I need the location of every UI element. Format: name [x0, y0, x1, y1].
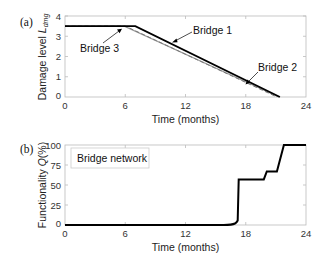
panel-a-ytick-0: 0 [56, 90, 61, 101]
annotation-bridge-2-text: Bridge 2 [258, 61, 297, 73]
panel-b-ylabel-unit: (%) [36, 142, 48, 158]
annotation-bridge-1: Bridge 1 [172, 24, 232, 43]
panel-a-ylabel-main: Damage level [36, 33, 48, 100]
panel-a-ylabel-sub: dmg [42, 14, 50, 28]
panel-b-xtick-12: 12 [180, 228, 191, 239]
panel-a-xtick-18: 18 [240, 100, 251, 111]
panel-a-xtick-12: 12 [180, 100, 191, 111]
panel-a-xlabel: Time (months) [152, 113, 219, 125]
panel-a-label: (a) [20, 16, 33, 29]
series-bridge-2-line [65, 26, 277, 97]
series-bridge-1-line [65, 26, 280, 97]
panel-a-ylabel: Damage level Ldmg [36, 14, 50, 101]
annotation-bridge-3-text: Bridge 3 [80, 42, 119, 54]
panel-b-xlabel: Time (months) [152, 241, 219, 253]
panel-b-ytick-0: 0 [56, 218, 61, 229]
panel-b-ytick-50: 50 [50, 180, 61, 191]
panel-b-ylabel: Functionality Q(%) [36, 142, 48, 228]
panel-a-xtick-0: 0 [62, 100, 67, 111]
panel-a-ytick-3: 3 [56, 31, 61, 42]
panel-a-ytick-1: 1 [56, 71, 61, 82]
annotation-bridge-1-text: Bridge 1 [193, 24, 232, 36]
panel-b-xtick-0: 0 [62, 228, 67, 239]
panel-a-xtick-24: 24 [301, 100, 312, 111]
legend-bridge-network: Bridge network [77, 152, 148, 164]
panel-b: (b) 100 75 50 25 0 0 6 12 18 24 Time (mo… [20, 140, 311, 254]
series-bridge-3-line [65, 26, 279, 97]
panel-b-label: (b) [20, 143, 34, 156]
annotation-bridge-2: Bridge 2 [246, 61, 298, 85]
panel-a-ytick-4: 4 [56, 11, 61, 22]
panel-b-legend: Bridge network [71, 148, 149, 168]
panel-b-xtick-24: 24 [301, 228, 312, 239]
panel-b-ylabel-main: Functionality [36, 166, 48, 228]
panel-a-xtick-6: 6 [123, 100, 128, 111]
panel-b-xtick-6: 6 [123, 228, 128, 239]
panel-a: (a) 4 3 2 1 0 0 6 12 18 24 Time (months) [20, 11, 311, 126]
panel-b-ylabel-var: Q [36, 158, 48, 166]
panel-b-ytick-25: 25 [50, 200, 61, 211]
figure: (a) 4 3 2 1 0 0 6 12 18 24 Time (months) [0, 0, 324, 260]
panel-a-ytick-2: 2 [56, 51, 61, 62]
panel-a-axes-box [65, 16, 306, 97]
panel-b-xtick-18: 18 [240, 228, 251, 239]
annotation-bridge-3: Bridge 3 [80, 29, 122, 54]
panel-b-ytick-75: 75 [50, 160, 61, 171]
